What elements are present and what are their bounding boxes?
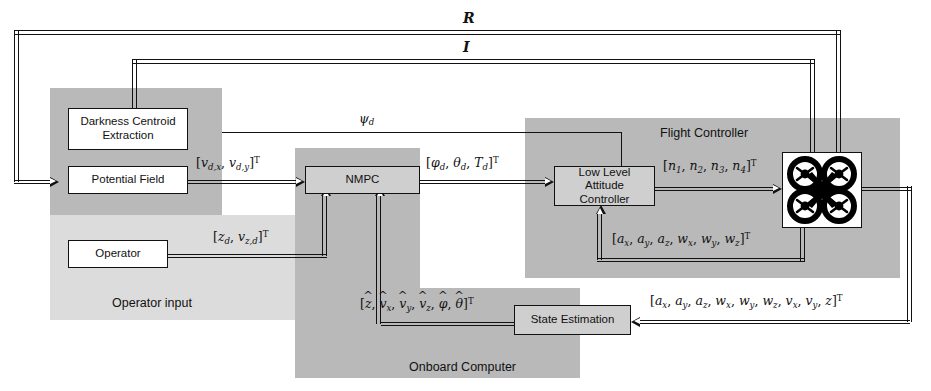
signal-label-full-sensor: [ax, ay, az, wx, wy, wz, vx, vy, z]T: [650, 293, 843, 310]
line-sensor-down: [907, 186, 912, 322]
line-state-est-h: [381, 322, 514, 327]
line-imu-h: [597, 258, 804, 263]
line-range-down: [14, 30, 19, 182]
arrow-vel-to-nmpc: [296, 177, 305, 187]
line-range-up: [836, 30, 841, 152]
signal-label-velocity-desired: [vd,x, vd,y]T: [196, 155, 260, 172]
line-sensor-out: [862, 187, 912, 192]
line-yaw-v: [621, 132, 622, 168]
signal-label-state-estimate: [z, vx, vy, vz, φ, θ]T: [360, 296, 474, 313]
signal-label-yaw-desired: ψd: [359, 111, 374, 127]
block-potential-field[interactable]: Potential Field: [68, 166, 188, 194]
block-darkness-centroid-extraction[interactable]: Darkness Centroid Extraction: [68, 108, 188, 150]
signal-label-imu: [ax, ay, az, wx, wy, wz]T: [612, 231, 750, 248]
block-operator[interactable]: Operator: [68, 240, 168, 268]
group-operator-input-label: Operator input: [112, 296, 192, 310]
signal-label-image: I: [463, 39, 470, 55]
line-operator-v: [322, 196, 327, 256]
block-quadrotor[interactable]: [782, 152, 862, 228]
signal-label-operator-command: [zd, vz,d]T: [213, 229, 268, 246]
arrow-imu-to-low-level: [596, 205, 606, 214]
block-low-level-attitude-controller[interactable]: Low Level Attitude Controller: [554, 166, 655, 206]
line-image-up: [810, 59, 815, 152]
low-level-line2: Controller: [580, 193, 630, 207]
line-range-into-pf: [14, 180, 50, 185]
low-level-line1: Low Level Attitude: [558, 166, 651, 193]
group-onboard-computer-label: Onboard Computer: [409, 360, 516, 374]
arrow-sensor-to-state-estimation: [631, 317, 640, 327]
line-image-top: [132, 59, 815, 64]
block-diagram-canvas: Operator input Onboard Computer Flight C…: [0, 0, 931, 391]
signal-label-attitude-command: [φd, θd, Td]T: [426, 155, 499, 172]
arrow-motor-speeds: [773, 184, 782, 194]
line-sensor-to-se: [640, 320, 910, 325]
state-estimation-label: State Estimation: [531, 313, 615, 327]
nmpc-label: NMPC: [346, 173, 380, 187]
line-vel-desired: [188, 180, 298, 185]
darkness-centroid-line2: Extraction: [102, 129, 153, 143]
line-range-top: [14, 30, 841, 35]
arrow-range-to-potential-field: [50, 177, 59, 187]
darkness-centroid-line1: Darkness Centroid: [80, 115, 175, 129]
group-flight-controller-label: Flight Controller: [660, 126, 748, 140]
signal-label-range: R: [463, 10, 475, 26]
block-nmpc[interactable]: NMPC: [305, 166, 420, 194]
line-imu-up: [597, 214, 602, 260]
operator-label: Operator: [95, 247, 140, 261]
potential-field-label: Potential Field: [92, 173, 165, 187]
line-image-down: [132, 59, 137, 111]
line-attitude-cmd: [420, 180, 547, 185]
signal-label-motor-speeds: [n1, n2, n3, n4]T: [663, 158, 757, 175]
line-operator-h: [167, 254, 327, 259]
block-state-estimation[interactable]: State Estimation: [514, 305, 631, 335]
quadcopter-icon: [786, 156, 858, 224]
line-yaw-h: [222, 132, 622, 133]
arrow-attitude-cmd: [545, 177, 554, 187]
line-motor-speeds: [655, 187, 775, 192]
